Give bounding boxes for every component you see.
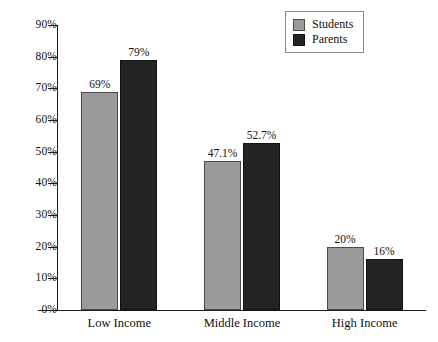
bar-parents-high-income: 16% <box>366 259 403 310</box>
y-axis-tick: 90% <box>0 25 57 26</box>
y-axis-tick-label: 10% <box>15 272 57 284</box>
bar-value-label: 47.1% <box>208 147 238 159</box>
x-axis-line <box>38 310 426 311</box>
y-axis-tick: 40% <box>0 183 57 184</box>
y-axis-tick: 10% <box>0 278 57 279</box>
bar-value-label: 20% <box>335 233 356 245</box>
bar-students-middle-income: 47.1% <box>204 161 241 310</box>
x-axis-label-middle-income: Middle Income <box>172 316 312 331</box>
students-swatch-icon <box>293 19 305 31</box>
legend-item-students: Students <box>293 17 353 32</box>
x-axis-label-high-income: High Income <box>295 316 435 331</box>
bar-value-label: 52.7% <box>247 129 277 141</box>
y-axis-tick-label: 90% <box>15 19 57 31</box>
legend-item-parents: Parents <box>293 32 353 47</box>
y-axis-tick: 70% <box>0 88 57 89</box>
y-axis-tick: 50% <box>0 152 57 153</box>
y-axis-tick-label: 20% <box>15 241 57 253</box>
bar-parents-low-income: 79% <box>120 60 157 310</box>
y-axis-tick-label: 70% <box>15 82 57 94</box>
bar-value-label: 79% <box>128 46 149 58</box>
bar-parents-middle-income: 52.7% <box>243 143 280 310</box>
bar-value-label: 16% <box>374 245 395 257</box>
y-axis-tick: 80% <box>0 57 57 58</box>
y-axis-tick: 20% <box>0 247 57 248</box>
bar-value-label: 69% <box>89 78 110 90</box>
legend-label-parents: Parents <box>312 33 347 46</box>
bar-students-high-income: 20% <box>327 247 364 310</box>
y-axis-tick-label: 80% <box>15 51 57 63</box>
y-axis-tick: 60% <box>0 120 57 121</box>
x-axis-label-low-income: Low Income <box>49 316 189 331</box>
legend-label-students: Students <box>312 18 353 31</box>
bar-chart: 0%10%20%30%40%50%60%70%80%90% 69%79%47.1… <box>0 0 438 342</box>
chart-legend: Students Parents <box>285 11 364 53</box>
y-axis-tick-label: 30% <box>15 209 57 221</box>
y-axis-tick: 30% <box>0 215 57 216</box>
y-axis-tick-label: 50% <box>15 146 57 158</box>
y-axis-tick-label: 60% <box>15 114 57 126</box>
plot-area: 69%79%47.1%52.7%20%16% <box>58 25 426 310</box>
bar-students-low-income: 69% <box>81 92 118 311</box>
parents-swatch-icon <box>293 34 305 46</box>
y-axis-tick-label: 40% <box>15 177 57 189</box>
